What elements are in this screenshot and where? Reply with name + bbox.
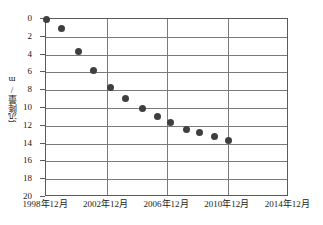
y-tick-label: 2 bbox=[0, 31, 32, 40]
data-point bbox=[107, 84, 114, 91]
data-point bbox=[196, 129, 203, 136]
data-point bbox=[211, 133, 218, 140]
data-point bbox=[58, 25, 65, 32]
y-axis-title-text: 沉降量/m bbox=[5, 75, 18, 122]
y-tick-mark bbox=[40, 196, 45, 197]
settlement-scatter-chart: 沉降量/m 02468101214161820 1998年12月2002年12月… bbox=[0, 0, 323, 225]
y-tick-label: 14 bbox=[0, 138, 32, 147]
data-point bbox=[154, 113, 161, 120]
y-axis-title: 沉降量/m bbox=[4, 0, 18, 196]
y-tick-label: 8 bbox=[0, 85, 32, 94]
data-point bbox=[183, 126, 190, 133]
y-tick-label: 6 bbox=[0, 67, 32, 76]
data-point bbox=[225, 137, 232, 144]
y-tick-label: 12 bbox=[0, 120, 32, 129]
y-tick-label: 18 bbox=[0, 174, 32, 183]
data-point bbox=[167, 119, 174, 126]
y-tick-label: 10 bbox=[0, 103, 32, 112]
data-point bbox=[43, 16, 50, 23]
gridline-vertical bbox=[228, 19, 229, 195]
x-tick-label: 2014年12月 bbox=[247, 199, 323, 209]
y-tick-label: 0 bbox=[0, 14, 32, 23]
gridline-vertical bbox=[107, 19, 108, 195]
plot-area bbox=[45, 18, 288, 196]
data-point bbox=[122, 95, 129, 102]
y-tick-label: 4 bbox=[0, 49, 32, 58]
gridline-vertical bbox=[167, 19, 168, 195]
y-tick-label: 16 bbox=[0, 156, 32, 165]
data-point bbox=[75, 48, 82, 55]
data-point bbox=[139, 105, 146, 112]
